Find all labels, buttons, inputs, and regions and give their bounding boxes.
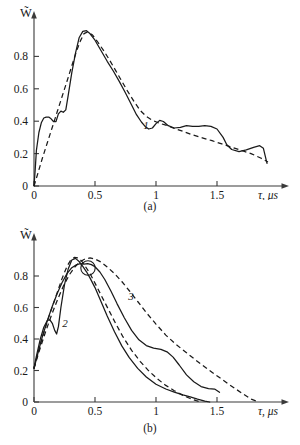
- y-tick-label-b-2: 0.4: [14, 333, 29, 345]
- y-tick-label-a-2: 0.4: [14, 115, 29, 127]
- chart-a-curves: [34, 31, 268, 186]
- curve-a-1: [34, 31, 267, 186]
- y-tick-label-a-0: 0: [22, 180, 28, 192]
- chart-a-axes: [31, 11, 289, 189]
- chart-b-y-ticks: [34, 276, 39, 402]
- curve-label-a-1: 1: [143, 119, 149, 131]
- y-tick-label-b-3: 0.6: [14, 302, 29, 314]
- chart-a-y-ticks: [34, 56, 39, 186]
- curve-label-b-2: 2: [62, 317, 68, 329]
- curve-b-2-envelope: [34, 257, 201, 402]
- x-tick-label-a-0: 0: [31, 189, 37, 200]
- panel-b-caption: (b): [0, 422, 300, 434]
- y-tick-label-a-1: 0.2: [14, 148, 29, 160]
- chart-a-x-ticks: [34, 181, 217, 186]
- chart-panel-b: 0 0.2 0.4 0.6 0.8 0 0.5 1 1.5 τ, μs W̃: [0, 222, 300, 445]
- figure-root: 0 0.2 0.4 0.6 0.8 0 0.5 1 1.5 τ, μs W̃ 1…: [0, 0, 300, 445]
- y-axis-arrow-a: [31, 11, 37, 19]
- x-axis-arrow-b: [282, 399, 290, 405]
- x-tick-label-b-2: 1: [153, 405, 159, 417]
- y-tick-label-a-4: 0.8: [14, 50, 29, 62]
- crossing-circle-marker-b: [81, 261, 95, 275]
- chart-a-svg: 0 0.2 0.4 0.6 0.8 0 0.5 1 1.5 τ, μs W̃ 1: [0, 0, 300, 200]
- x-tick-label-b-3: 1.5: [210, 405, 225, 417]
- x-axis-arrow-a: [282, 183, 290, 189]
- y-axis-arrow-b: [31, 233, 37, 241]
- x-tick-label-a-2: 1: [153, 189, 159, 200]
- chart-b-curves: [34, 257, 259, 402]
- curve-label-b-3: 3: [127, 290, 134, 302]
- y-tick-label-b-4: 0.8: [14, 270, 29, 282]
- chart-panel-a: 0 0.2 0.4 0.6 0.8 0 0.5 1 1.5 τ, μs W̃ 1…: [0, 0, 300, 222]
- x-tick-label-a-1: 0.5: [88, 189, 103, 200]
- y-tick-label-b-0: 0: [22, 396, 28, 408]
- panel-a-caption: (a): [0, 200, 300, 212]
- x-axis-title-b: τ, μs: [258, 405, 279, 418]
- x-tick-label-a-3: 1.5: [210, 189, 225, 200]
- x-tick-label-b-1: 0.5: [88, 405, 103, 417]
- y-tick-label-b-1: 0.2: [14, 365, 29, 377]
- curve-a-envelope: [34, 32, 268, 186]
- curve-b-2: [34, 258, 210, 402]
- x-tick-label-b-0: 0: [31, 405, 37, 417]
- y-axis-symbol-b: W̃: [20, 228, 32, 242]
- y-axis-symbol-a: W̃: [20, 6, 32, 20]
- chart-b-svg: 0 0.2 0.4 0.6 0.8 0 0.5 1 1.5 τ, μs W̃: [0, 222, 300, 422]
- y-tick-label-a-3: 0.6: [14, 83, 29, 95]
- x-axis-title-a: τ, μs: [258, 189, 279, 200]
- chart-b-axes: [31, 233, 289, 405]
- curve-b-3-envelope: [34, 258, 259, 402]
